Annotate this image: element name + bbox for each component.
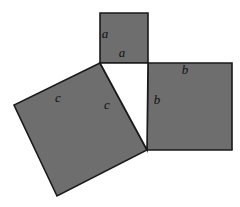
label-c-upper: c (55, 90, 61, 105)
figure-canvas: a a b b c c (0, 0, 240, 207)
label-b-left: b (154, 92, 161, 107)
label-b-top: b (182, 62, 189, 77)
label-a-left: a (102, 26, 109, 41)
label-a-lower: a (119, 45, 126, 60)
pythagorean-figure: a a b b c c (0, 0, 240, 207)
label-c-right: c (104, 97, 110, 112)
